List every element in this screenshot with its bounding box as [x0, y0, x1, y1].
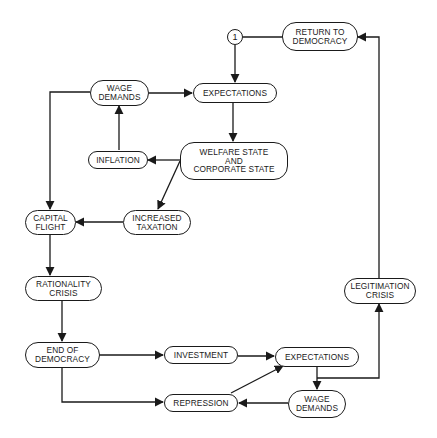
node-welfare-corporate-state: WELFARE STATE AND CORPORATE STATE — [180, 142, 288, 180]
edge-wage-to-capital-flight — [50, 92, 90, 209]
connector-node-1: 1 — [227, 29, 243, 45]
node-end-of-democracy: END OF DEMOCRACY — [25, 342, 100, 368]
node-legitimation-crisis: LEGITIMATION CRISIS — [344, 278, 416, 304]
edge-legitimation-to-return — [358, 37, 379, 278]
node-inflation: INFLATION — [88, 151, 148, 169]
node-wage-demands-bottom: WAGE DEMANDS — [288, 390, 346, 418]
node-rationality-crisis: RATIONALITY CRISIS — [25, 276, 102, 301]
node-return-to-democracy: RETURN TO DEMOCRACY — [282, 22, 358, 51]
node-increased-taxation: INCREASED TAXATION — [123, 210, 191, 235]
node-wage-demands-top: WAGE DEMANDS — [90, 80, 149, 106]
edge-repression-to-expectations — [231, 366, 283, 393]
node-capital-flight: CAPITAL FLIGHT — [25, 210, 76, 235]
node-investment: INVESTMENT — [164, 346, 238, 364]
node-expectations-top: EXPECTATIONS — [193, 83, 277, 103]
edge-end-to-repression — [62, 367, 163, 402]
node-expectations-bottom: EXPECTATIONS — [275, 347, 359, 367]
edge-welfare-to-taxation — [158, 161, 180, 209]
flow-diagram: 1 RETURN TO DEMOCRACY WAGE DEMANDS EXPEC… — [0, 0, 437, 438]
node-repression: REPRESSION — [164, 394, 238, 412]
